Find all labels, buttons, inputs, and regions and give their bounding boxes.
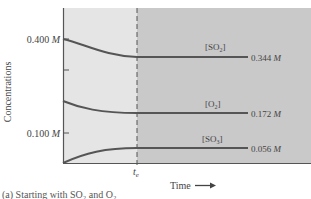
y-axis-label: Concentrations: [2, 62, 13, 123]
o2-final-value: 0.172 M: [251, 109, 282, 119]
figure-caption: (a) Starting with SO₂ and O₂: [2, 189, 116, 199]
equilibrium-concentration-chart: 0.400 M 0.100 M Concentrations [SO2] [O2…: [0, 0, 311, 199]
so3-series-label: [SO3]: [202, 134, 223, 145]
o2-series-label: [O2]: [205, 99, 221, 110]
so3-final-value: 0.056 M: [251, 144, 282, 154]
x-axis-label: Time: [170, 180, 191, 191]
equilibrium-time-label: te: [133, 166, 139, 179]
time-arrow-icon: [195, 183, 216, 189]
equilibrium-region: [137, 8, 311, 163]
pre-equilibrium-region: [63, 8, 137, 163]
y-tick-label-0100: 0.100 M: [27, 128, 61, 139]
y-tick-label-0400: 0.400 M: [27, 34, 61, 45]
so2-series-label: [SO2]: [205, 42, 226, 53]
so2-final-value: 0.344 M: [251, 53, 282, 63]
